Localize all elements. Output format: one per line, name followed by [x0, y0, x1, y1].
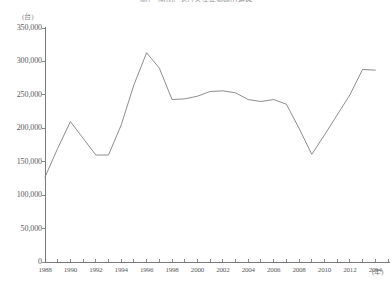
chart-container: 図1 国内における生産台数の推移 (台) 350,000300,000250,0… — [0, 0, 392, 282]
data-series-line — [45, 53, 375, 177]
plot-area — [0, 0, 392, 282]
